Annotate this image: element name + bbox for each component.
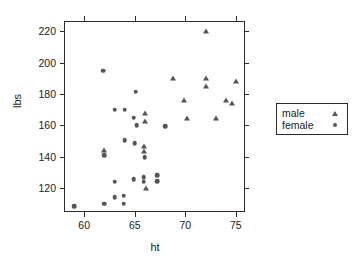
data-point-female — [133, 89, 138, 94]
x-axis-tick — [84, 211, 85, 217]
x-axis-tick — [236, 211, 237, 217]
data-point-male — [141, 149, 147, 154]
y-axis-tick-label: 160 — [38, 119, 56, 131]
data-point-male — [213, 116, 219, 121]
legend-item-male: male — [282, 107, 342, 119]
data-point-female — [143, 155, 148, 160]
y-axis-tick-right — [244, 31, 249, 32]
y-axis-tick-label: 180 — [38, 88, 56, 100]
y-axis-tick — [60, 125, 65, 126]
legend: malefemale — [276, 103, 348, 135]
legend-item-female: female — [282, 119, 342, 131]
scatter-plot-figure: lbs ht 12014016018020022060657075 malefe… — [0, 0, 356, 265]
y-axis-tick-right — [244, 157, 249, 158]
x-axis-tick-top — [135, 16, 136, 22]
data-point-female — [155, 173, 160, 178]
data-point-male — [233, 78, 239, 83]
y-axis-tick-right — [244, 188, 249, 189]
y-axis-tick-right — [244, 125, 249, 126]
legend-marker-triangle — [328, 111, 342, 116]
circle-icon — [333, 123, 338, 128]
y-axis-tick-label: 220 — [38, 25, 56, 37]
data-point-male — [181, 98, 187, 103]
data-point-female — [72, 204, 77, 209]
data-point-female — [163, 124, 168, 129]
y-axis-tick — [60, 94, 65, 95]
y-axis-tick — [60, 63, 65, 64]
data-point-female — [134, 123, 139, 128]
data-point-male — [141, 143, 147, 148]
data-point-female — [102, 201, 107, 206]
data-point-male — [203, 84, 209, 89]
data-point-female — [131, 115, 136, 120]
data-point-male — [229, 100, 235, 105]
legend-marker-circle — [328, 123, 342, 128]
data-point-male — [143, 185, 149, 190]
x-axis-tick-label: 70 — [179, 219, 191, 231]
data-point-female — [101, 68, 106, 73]
data-point-female — [131, 177, 136, 182]
data-point-male — [184, 115, 190, 120]
x-axis-tick-top — [84, 16, 85, 22]
data-point-male — [203, 29, 209, 34]
data-point-female — [102, 153, 107, 158]
data-point-female — [122, 138, 127, 143]
legend-label: female — [282, 119, 328, 131]
y-axis-tick-label: 140 — [38, 151, 56, 163]
y-axis-tick-label: 200 — [38, 57, 56, 69]
y-axis-tick — [60, 31, 65, 32]
x-axis-tick-label: 60 — [78, 219, 90, 231]
data-point-female — [121, 193, 126, 198]
data-point-male — [142, 110, 148, 115]
x-axis-tick-top — [236, 16, 237, 22]
data-point-female — [112, 195, 117, 200]
triangle-icon — [332, 111, 338, 116]
data-point-female — [142, 179, 147, 184]
data-point-male — [142, 118, 148, 123]
x-axis-tick-label: 75 — [230, 219, 242, 231]
data-area — [65, 22, 244, 211]
y-axis-tick-label: 120 — [38, 182, 56, 194]
plot-frame: 12014016018020022060657075 — [64, 21, 245, 212]
y-axis-tick — [60, 188, 65, 189]
data-point-female — [112, 179, 117, 184]
data-point-female — [155, 179, 160, 184]
y-axis-title: lbs — [11, 94, 23, 108]
data-point-female — [122, 107, 127, 112]
data-point-female — [132, 141, 137, 146]
x-axis-tick — [135, 211, 136, 217]
x-axis-tick — [185, 211, 186, 217]
y-axis-tick-right — [244, 63, 249, 64]
legend-label: male — [282, 107, 328, 119]
data-point-male — [203, 76, 209, 81]
data-point-female — [121, 201, 126, 206]
x-axis-tick-top — [185, 16, 186, 22]
x-axis-title: ht — [0, 241, 310, 253]
y-axis-tick — [60, 157, 65, 158]
data-point-male — [170, 76, 176, 81]
x-axis-tick-label: 65 — [129, 219, 141, 231]
data-point-female — [112, 107, 117, 112]
y-axis-tick-right — [244, 94, 249, 95]
